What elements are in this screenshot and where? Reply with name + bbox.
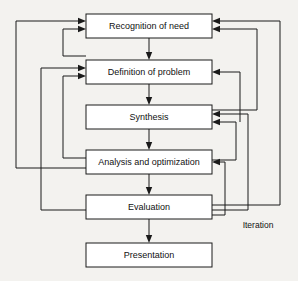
feedback-evaluation-to-recognition — [212, 18, 280, 205]
flow-evaluation-to-presentation — [146, 219, 152, 243]
node-evaluation[interactable]: Evaluation — [86, 195, 212, 219]
node-label-evaluation: Evaluation — [128, 202, 170, 212]
feedback-analysis-to-recognition — [16, 18, 86, 168]
flow-analysis-to-evaluation — [146, 174, 152, 195]
flow-synthesis-to-analysis — [146, 129, 152, 150]
node-label-presentation: Presentation — [124, 250, 175, 260]
node-recognition-of-need[interactable]: Recognition of need — [86, 14, 212, 38]
feedback-definition-to-recognition — [63, 26, 86, 56]
feedback-analysis-to-synthesis — [212, 119, 236, 160]
node-label-synthesis: Synthesis — [129, 112, 169, 122]
node-label-analysis: Analysis and optimization — [98, 157, 200, 167]
flow-recognition-to-definition — [146, 38, 152, 60]
feedback-analysis-to-definition — [63, 73, 86, 158]
flowchart-canvas: Recognition of need Definition of proble… — [0, 0, 298, 281]
node-label-recognition: Recognition of need — [109, 21, 189, 31]
node-presentation[interactable]: Presentation — [86, 243, 212, 267]
node-analysis-and-optimization[interactable]: Analysis and optimization — [86, 150, 212, 174]
flowchart-svg: Recognition of need Definition of proble… — [0, 0, 298, 281]
node-definition-of-problem[interactable]: Definition of problem — [86, 60, 212, 84]
feedback-evaluation-to-analysis — [212, 159, 225, 215]
node-label-definition: Definition of problem — [108, 67, 191, 77]
feedback-synthesis-to-recognition — [212, 26, 257, 110]
node-synthesis[interactable]: Synthesis — [86, 105, 212, 129]
flow-definition-to-synthesis — [146, 84, 152, 105]
iteration-label: Iteration — [243, 220, 274, 230]
